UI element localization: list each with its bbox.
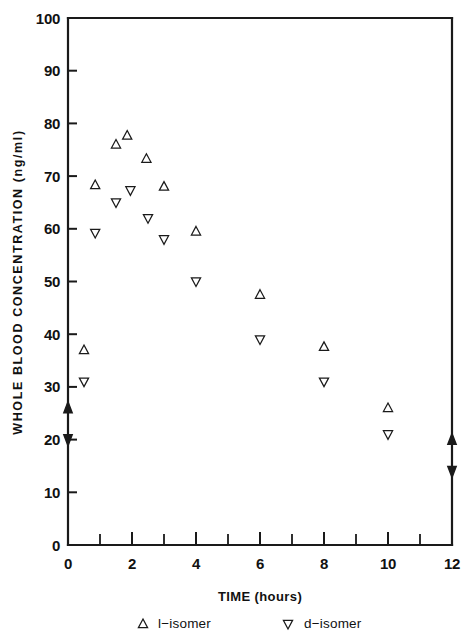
x-axis-tick-labels: 024681012: [64, 555, 460, 572]
y-axis-title: WHOLE BLOOD CONCENTRATION (ng/ml): [11, 129, 25, 434]
right-axis-arrow-head-up: [448, 433, 456, 444]
data-point-l-isomer: [123, 131, 132, 140]
x-tick-label: 0: [64, 555, 72, 572]
data-point-d-isomer: [79, 378, 88, 387]
y-tick-label: 0: [52, 537, 60, 554]
x-tick-label: 4: [192, 555, 201, 572]
x-axis-title: TIME (hours): [218, 589, 302, 604]
data-point-l-isomer: [319, 342, 328, 351]
x-tick-label: 10: [380, 555, 396, 572]
y-tick-label: 50: [44, 273, 60, 290]
chart-figure: 0102030405060708090100 024681012 WHOLE B…: [0, 0, 474, 632]
data-point-d-isomer: [91, 229, 100, 238]
data-point-d-isomer: [383, 431, 392, 440]
y-axis-tick-labels: 0102030405060708090100: [36, 10, 60, 554]
y-tick-label: 100: [36, 10, 60, 27]
y-tick-label: 20: [44, 431, 60, 448]
right-axis-arrow-head-down: [448, 466, 456, 477]
data-point-l-isomer: [142, 154, 151, 163]
x-axis-ticks: [68, 532, 452, 545]
x-tick-label: 2: [128, 555, 136, 572]
data-point-l-isomer: [383, 403, 392, 412]
data-point-d-isomer: [191, 278, 200, 287]
legend-label-l-isomer: l−isomer: [158, 616, 211, 631]
data-point-l-isomer: [79, 345, 88, 354]
y-tick-label: 40: [44, 326, 60, 343]
legend-label-d-isomer: d−isomer: [304, 616, 362, 631]
data-point-d-isomer: [159, 236, 168, 245]
y-tick-label: 90: [44, 62, 60, 79]
legend-marker-triangle-up: [138, 619, 147, 628]
y-tick-label: 70: [44, 168, 60, 185]
data-point-l-isomer: [191, 226, 200, 235]
data-point-d-isomer: [126, 187, 135, 196]
axis-annotations: [64, 402, 456, 478]
y-axis-ticks: [68, 18, 77, 545]
series-l-isomer: [79, 131, 392, 412]
y-tick-label: 60: [44, 220, 60, 237]
data-point-l-isomer: [255, 290, 264, 299]
left-axis-arrow-head-up: [64, 402, 72, 413]
data-point-l-isomer: [159, 182, 168, 191]
x-tick-label: 6: [256, 555, 264, 572]
legend-marker-triangle-down: [283, 620, 292, 629]
axis-frame: [68, 18, 452, 545]
data-point-d-isomer: [255, 336, 264, 345]
data-point-l-isomer: [111, 139, 120, 148]
scatter-plot: 0102030405060708090100 024681012 WHOLE B…: [0, 0, 474, 632]
x-tick-label: 8: [320, 555, 328, 572]
y-tick-label: 80: [44, 115, 60, 132]
y-tick-label: 10: [44, 484, 60, 501]
y-tick-label: 30: [44, 378, 60, 395]
data-point-d-isomer: [111, 199, 120, 208]
data-point-l-isomer: [91, 180, 100, 189]
data-point-d-isomer: [143, 215, 152, 224]
chart-legend: l−isomer d−isomer: [138, 616, 361, 631]
x-tick-label: 12: [444, 555, 460, 572]
series-d-isomer: [79, 187, 392, 440]
data-point-d-isomer: [319, 378, 328, 387]
